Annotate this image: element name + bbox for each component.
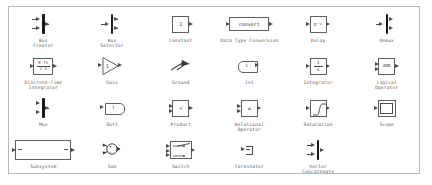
block-relational-operator[interactable]: ≤ RelationalOperator xyxy=(215,95,284,137)
delay-expr: z⁻¹ xyxy=(314,21,323,27)
block-terminator[interactable]: Terminator xyxy=(215,137,284,179)
gain-value: 1 xyxy=(106,63,109,69)
fraction-numerator: 1 xyxy=(317,60,320,65)
block-scope[interactable]: Scope xyxy=(352,95,421,137)
block-label: Saturation xyxy=(303,122,332,127)
block-product[interactable]: × Product xyxy=(146,95,215,137)
integrator-icon: 1 s xyxy=(284,53,353,79)
bus-selector-icon xyxy=(78,11,147,37)
block-ground[interactable]: Ground xyxy=(146,53,215,95)
block-out1[interactable]: 1 Out1 xyxy=(78,95,147,137)
out1-icon: 1 xyxy=(78,95,147,121)
block-label: Product xyxy=(170,122,190,127)
data-type-conversion-icon: convert xyxy=(215,11,284,37)
block-label: LogicalOperator xyxy=(375,80,398,91)
block-saturation[interactable]: Saturation xyxy=(284,95,353,137)
block-label: Integrator xyxy=(303,80,332,85)
switch-icon xyxy=(146,137,215,163)
block-empty-slot xyxy=(352,137,421,179)
product-icon: × xyxy=(146,95,215,121)
block-label: VectorConcatenate xyxy=(302,164,334,175)
simulink-library-palette: BusCreator BusSelector 1 xyxy=(8,6,420,174)
block-in1[interactable]: 1 In1 xyxy=(215,53,284,95)
bus-creator-icon xyxy=(9,11,78,37)
block-label: Demux xyxy=(379,38,394,43)
block-bus-selector[interactable]: BusSelector xyxy=(78,11,147,53)
block-constant[interactable]: 1 Constant xyxy=(146,11,215,53)
mux-icon xyxy=(9,95,78,121)
block-subsystem[interactable]: Subsystem xyxy=(9,137,78,179)
sum-icon: + − xyxy=(78,137,147,163)
block-logical-operator[interactable]: AND LogicalOperator xyxy=(352,53,421,95)
constant-icon: 1 xyxy=(146,11,215,37)
block-label: Subsystem xyxy=(30,164,56,169)
block-label: Terminator xyxy=(235,164,264,169)
convert-text: convert xyxy=(239,21,260,27)
scope-icon xyxy=(352,95,421,121)
block-label: RelationalOperator xyxy=(235,122,264,133)
block-bus-creator[interactable]: BusCreator xyxy=(9,11,78,53)
block-label: In1 xyxy=(245,80,254,85)
palette-row: BusCreator BusSelector 1 xyxy=(9,11,421,53)
relational-operator-icon: ≤ xyxy=(215,95,284,121)
block-label: Constant xyxy=(169,38,192,43)
discrete-time-integrator-icon: K Ts z-1 xyxy=(9,53,78,79)
empty-glyph xyxy=(352,137,421,163)
relational-symbol: ≤ xyxy=(248,105,251,111)
constant-value: 1 xyxy=(179,21,182,27)
block-label: Ground xyxy=(172,80,190,85)
logical-operator-icon: AND xyxy=(352,53,421,79)
block-data-type-conversion[interactable]: convert Data Type Conversion xyxy=(215,11,284,53)
vector-concatenate-icon xyxy=(284,137,353,163)
palette-row: Mux 1 Out1 × Product xyxy=(9,95,421,137)
fraction-numerator: K Ts xyxy=(38,61,48,66)
block-demux[interactable]: Demux xyxy=(352,11,421,53)
block-label: Out1 xyxy=(106,122,118,127)
block-sum[interactable]: + − Sum xyxy=(78,137,147,179)
palette-row: K Ts z-1 Discrete-TimeIntegrator 1 xyxy=(9,53,421,95)
block-label: Discrete-TimeIntegrator xyxy=(24,80,62,91)
logical-op-text: AND xyxy=(383,63,390,69)
fraction-denominator: z-1 xyxy=(40,67,48,72)
block-label: Gain xyxy=(106,80,118,85)
block-vector-concatenate[interactable]: VectorConcatenate xyxy=(284,137,353,179)
block-label: BusCreator xyxy=(33,38,53,49)
block-mux[interactable]: Mux xyxy=(9,95,78,137)
fraction-denominator: s xyxy=(317,67,320,72)
block-integrator[interactable]: 1 s Integrator xyxy=(284,53,353,95)
delay-icon: z⁻¹ xyxy=(284,11,353,37)
block-switch[interactable]: Switch xyxy=(146,137,215,179)
terminator-icon xyxy=(215,137,284,163)
subsystem-icon xyxy=(9,137,78,163)
block-gain[interactable]: 1 Gain xyxy=(78,53,147,95)
ground-icon xyxy=(146,53,215,79)
block-label: Switch xyxy=(172,164,190,169)
block-label: Scope xyxy=(379,122,394,127)
in1-icon: 1 xyxy=(215,53,284,79)
block-label: Mux xyxy=(39,122,48,127)
inport-number: 1 xyxy=(245,63,248,68)
product-symbol: × xyxy=(179,105,182,111)
saturation-icon xyxy=(284,95,353,121)
gain-icon: 1 xyxy=(78,53,147,79)
demux-icon xyxy=(352,11,421,37)
block-label: Data Type Conversion xyxy=(220,38,278,43)
outport-number: 1 xyxy=(112,105,115,110)
block-discrete-time-integrator[interactable]: K Ts z-1 Discrete-TimeIntegrator xyxy=(9,53,78,95)
block-label: BusSelector xyxy=(100,38,123,49)
palette-row: Subsystem + − xyxy=(9,137,421,179)
block-label: Sum xyxy=(108,164,117,169)
block-delay[interactable]: z⁻¹ Delay xyxy=(284,11,353,53)
block-label: Delay xyxy=(311,38,326,43)
